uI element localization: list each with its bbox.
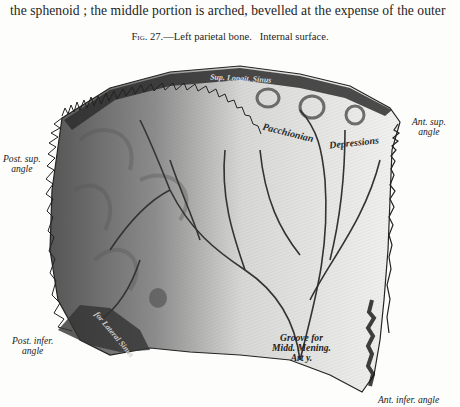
label-post-infer-angle: Post. infer. angle [12,336,53,356]
label-groove-mid-meningeal-artery: Groove for Midd. Mening. Art y. [272,333,331,363]
label-ant-sup-angle: Ant. sup. angle [412,117,446,137]
label-ant-infer-angle: Ant. infer. angle [378,395,439,405]
parietal-bone-illustration [0,0,460,407]
label-post-sup-angle: Post. sup. angle [3,154,41,174]
